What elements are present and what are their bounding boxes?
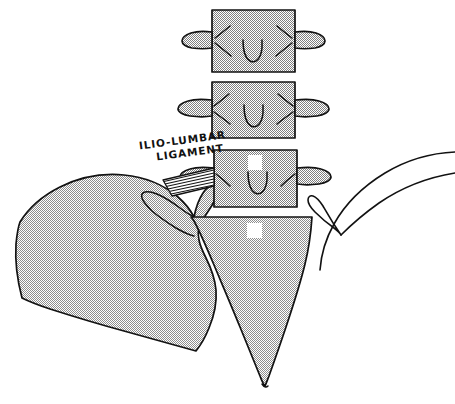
l3-transverse-process-left [182, 31, 212, 48]
ilium-left-body [16, 175, 218, 352]
l4-transverse-process-left [178, 99, 212, 116]
anatomy-diagram: S [0, 0, 455, 404]
sacrum-label: S [249, 223, 258, 238]
l5-label: 5 [250, 155, 259, 170]
l3-body [212, 10, 295, 72]
lumbar-vertebra-l4 [178, 82, 329, 138]
ilium-right-tuberosity [308, 196, 341, 235]
l4-transverse-process-right [295, 99, 329, 116]
ilium-left-shaded [16, 175, 218, 352]
anatomical-illustration: S [0, 0, 455, 404]
l3-transverse-process-right [295, 31, 325, 48]
ilium-right-inner-line [341, 173, 455, 235]
ilium-right-crest-line [320, 152, 455, 270]
ilium-right-outline [308, 152, 455, 270]
l5-transverse-process-right [297, 167, 331, 184]
lumbar-vertebra-l3 [182, 10, 325, 72]
